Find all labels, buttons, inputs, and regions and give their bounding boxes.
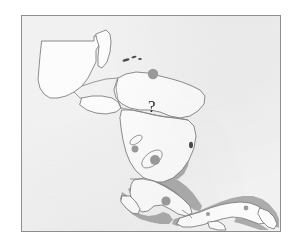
azuero-peninsula xyxy=(208,221,226,230)
bay-island-mid-icon xyxy=(131,55,137,58)
costa-rica-pacific-marker xyxy=(161,196,170,205)
country-el-salvador xyxy=(80,96,121,114)
country-guatemala xyxy=(38,36,100,98)
northern-honduras-marker xyxy=(148,69,158,79)
bay-island-east-icon xyxy=(138,58,142,60)
nicaragua-pacific-marker xyxy=(150,155,160,165)
map-figure: ? xyxy=(0,0,297,240)
caribbean-islet-icon xyxy=(189,142,193,148)
bay-island-west-icon xyxy=(122,58,130,62)
map-frame: ? xyxy=(21,15,281,232)
central-america-map xyxy=(22,16,280,231)
border-guatemala-el-salvador xyxy=(74,92,82,98)
panama-interior-marker xyxy=(244,206,249,211)
lake-nicaragua-marker xyxy=(132,146,139,153)
panama-west-marker xyxy=(206,212,210,216)
question-mark-annotation: ? xyxy=(148,98,156,115)
country-belize xyxy=(96,30,111,68)
